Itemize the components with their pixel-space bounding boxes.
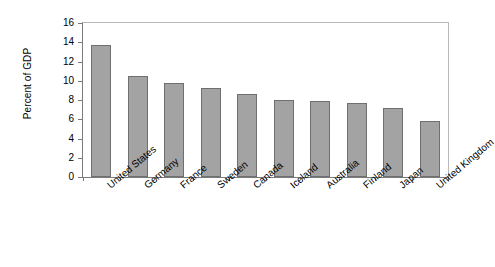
bar-slot: [339, 23, 376, 177]
y-tick-label: 14: [63, 36, 74, 47]
y-tick-label: 2: [68, 152, 74, 163]
bar: [91, 45, 111, 177]
bar-slot: [412, 23, 449, 177]
bar-slot: [229, 23, 266, 177]
bar-slot: [375, 23, 412, 177]
y-tick-label: 10: [63, 75, 74, 86]
y-tick-label: 0: [68, 171, 74, 182]
bar-slot: [193, 23, 230, 177]
bar-slot: [302, 23, 339, 177]
bar-slot: [83, 23, 120, 177]
y-tick-label: 8: [68, 94, 74, 105]
y-tick-label: 16: [63, 17, 74, 28]
y-tick-label: 12: [63, 56, 74, 67]
bar-slot: [156, 23, 193, 177]
bar: [420, 121, 440, 177]
bar-slot: [266, 23, 303, 177]
x-tick-mark: [83, 177, 84, 181]
y-tick-label: 6: [68, 113, 74, 124]
y-axis: 1614121086420: [0, 0, 82, 177]
y-tick-label: 4: [68, 133, 74, 144]
x-axis-labels: United StatesGermanyFranceSwedenCanadaIc…: [83, 182, 459, 267]
